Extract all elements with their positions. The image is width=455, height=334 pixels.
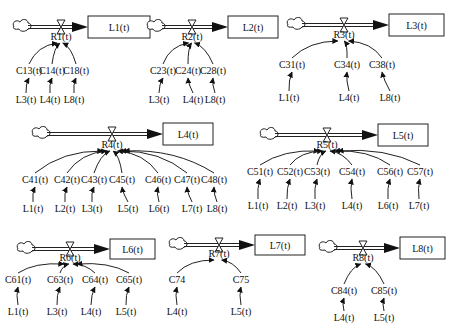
converter-label: C45(t) — [109, 174, 135, 186]
input-level-label: L3(t) — [47, 306, 68, 318]
converter-label: C54(t) — [339, 166, 365, 178]
flow-arrow-icon — [362, 130, 378, 140]
converter-label: C51(t) — [247, 166, 273, 178]
input-arrow — [213, 78, 215, 93]
rate-label: R4(t) — [101, 139, 122, 151]
input-arrow — [91, 287, 95, 305]
influence-arrow — [63, 43, 76, 64]
influence-arrow — [366, 264, 384, 284]
converter-label: C64(t) — [82, 274, 108, 286]
module-4: L4(t)R4(t)C41(t)C42(t)C43(t)C45(t)C46(t)… — [22, 123, 227, 215]
input-level-label: L7(t) — [409, 200, 430, 212]
input-level-label: L4(t) — [342, 200, 363, 212]
stock-label: L2(t) — [243, 22, 264, 34]
stock-label: L7(t) — [270, 240, 291, 252]
module-2: L2(t)R2(t)C23(t)C24(t)C28(t)L3(t)L4(t)L8… — [147, 16, 278, 106]
converter-label: C23(t) — [150, 65, 176, 77]
input-level-label: L6(t) — [149, 203, 170, 215]
flow-arrow-icon — [239, 240, 255, 250]
flow-arrow-icon — [373, 20, 389, 30]
input-level-label: L2(t) — [55, 203, 76, 215]
input-level-label: L4(t) — [334, 312, 355, 324]
influence-arrow — [222, 260, 241, 273]
input-level-label: L3(t) — [16, 94, 37, 106]
influence-arrow — [292, 41, 338, 58]
input-arrow — [258, 179, 260, 199]
converter-label: C41(t) — [22, 174, 48, 186]
converter-label: C43(t) — [81, 174, 107, 186]
input-arrow — [343, 298, 344, 311]
rate-label: R3(t) — [333, 29, 354, 41]
influence-arrow — [349, 41, 382, 58]
flow-arrow-icon — [94, 244, 110, 254]
input-arrow — [17, 287, 18, 305]
converter-label: C18(t) — [63, 65, 89, 77]
rate-label: R6(t) — [59, 252, 80, 264]
input-level-label: L5(t) — [231, 306, 252, 318]
converter-label: C56(t) — [377, 166, 403, 178]
rate-label: R7(t) — [208, 248, 229, 260]
input-level-label: L8(t) — [380, 92, 401, 104]
converter-label: C47(t) — [174, 174, 200, 186]
input-arrow — [214, 187, 217, 202]
influence-arrow — [344, 264, 361, 284]
input-level-label: L2(t) — [277, 200, 298, 212]
flow-arrow-icon — [72, 22, 88, 32]
stock-flow-diagram: L1(t)R1(t)C13(t)C14(t)C18(t)L3(t)L4(t)L8… — [0, 0, 455, 334]
influence-arrow — [195, 43, 213, 64]
input-arrow — [176, 287, 177, 305]
input-arrow — [126, 287, 129, 305]
converter-label: C46(t) — [145, 174, 171, 186]
influence-arrow — [335, 151, 390, 165]
input-level-label: L8(t) — [205, 94, 226, 106]
influence-arrow — [94, 151, 110, 173]
flow-arrow-icon — [147, 129, 163, 139]
input-arrow — [33, 187, 35, 202]
influence-arrow — [124, 151, 214, 173]
converter-label: C28(t) — [200, 65, 226, 77]
converter-label: C31(t) — [279, 59, 305, 71]
input-level-label: L3(t) — [149, 94, 170, 106]
stock-label: L6(t) — [122, 244, 143, 256]
input-arrow — [388, 179, 390, 199]
input-level-label: L1(t) — [23, 203, 44, 215]
input-level-label: L4(t) — [183, 94, 204, 106]
input-arrow — [57, 287, 60, 305]
converter-label: C75 — [233, 274, 250, 285]
input-level-label: L3(t) — [82, 203, 103, 215]
stock-label: L1(t) — [109, 22, 130, 34]
converter-label: C38(t) — [369, 59, 395, 71]
rate-label: R2(t) — [181, 31, 202, 43]
input-level-label: L4(t) — [40, 94, 61, 106]
module-8: L8(t)R8(t)C84(t)C85(t)L4(t)L5(t) — [319, 237, 445, 324]
stock-label: L5(t) — [393, 130, 414, 142]
input-arrow — [26, 78, 29, 93]
input-arrow — [159, 78, 163, 93]
input-level-label: L4(t) — [167, 306, 188, 318]
converter-label: C85(t) — [371, 285, 397, 297]
module-6: L6(t)R6(t)C61(t)C63(t)C64(t)C65(t)L1(t)L… — [5, 239, 155, 318]
influence-arrow — [77, 264, 129, 273]
influence-arrow — [163, 43, 189, 64]
flow-arrow-icon — [212, 22, 228, 32]
input-level-label: L4(t) — [81, 306, 102, 318]
input-level-label: L7(t) — [182, 203, 203, 215]
influence-arrow — [317, 151, 326, 165]
influence-arrow — [121, 151, 187, 173]
input-level-label: L1(t) — [8, 306, 29, 318]
influence-arrow — [344, 41, 347, 58]
rate-label: R8(t) — [352, 252, 373, 264]
input-level-label: L5(t) — [374, 312, 395, 324]
influence-arrow — [73, 264, 95, 273]
input-level-label: L3(t) — [305, 200, 326, 212]
influence-arrow — [188, 43, 192, 64]
input-arrow — [383, 298, 384, 311]
input-arrow — [351, 179, 352, 199]
converter-label: C34(t) — [334, 59, 360, 71]
input-arrow — [157, 187, 159, 202]
input-level-label: L8(t) — [64, 94, 85, 106]
module-1: L1(t)R1(t)C13(t)C14(t)C18(t)L3(t)L4(t)L8… — [13, 16, 150, 106]
input-arrow — [187, 187, 192, 202]
influence-arrow — [52, 43, 60, 64]
input-arrow — [289, 72, 292, 91]
